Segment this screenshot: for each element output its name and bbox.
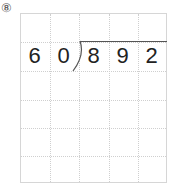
divisor-digit: 6 — [20, 42, 49, 70]
dividend-digit: 8 — [79, 42, 108, 70]
long-division-grid — [20, 13, 167, 183]
grid-line — [21, 128, 166, 129]
problem-number: ⑧ — [1, 1, 12, 15]
division-bar — [80, 41, 167, 42]
grid-line — [21, 156, 166, 157]
grid-line — [21, 71, 166, 72]
division-bracket-icon — [71, 40, 83, 72]
grid-line — [21, 100, 166, 101]
dividend-digit: 2 — [137, 42, 166, 70]
dividend-digit: 9 — [108, 42, 137, 70]
